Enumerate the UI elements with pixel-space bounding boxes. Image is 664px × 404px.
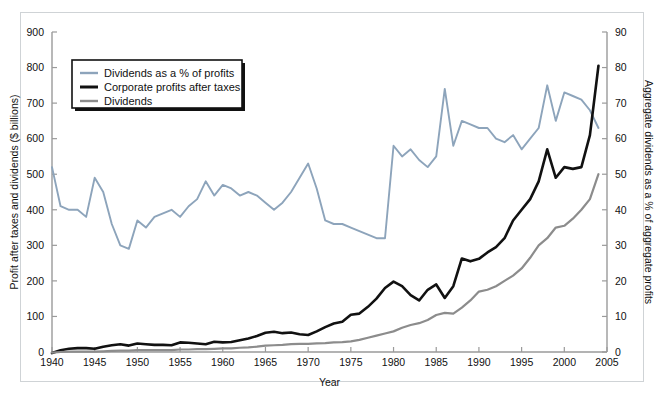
x-axis-tick-label: 1940 bbox=[40, 356, 64, 368]
x-axis-tick-label: 1960 bbox=[211, 356, 235, 368]
line-chart: 0100200300400500600700800900010203040506… bbox=[0, 0, 664, 404]
x-axis-tick-label: 1975 bbox=[339, 356, 363, 368]
legend-label-2: Corporate profits after taxes bbox=[104, 81, 241, 93]
x-axis-tick-label: 1945 bbox=[83, 356, 107, 368]
x-axis-tick-label: 1970 bbox=[296, 356, 320, 368]
legend-label-3: Dividends bbox=[104, 95, 153, 107]
y-axis-left-title: Profit after taxes and dividends ($ bill… bbox=[8, 95, 20, 290]
y-axis-left-tick-label: 700 bbox=[26, 97, 44, 109]
x-axis-tick-label: 1980 bbox=[382, 356, 406, 368]
chart-figure: 0100200300400500600700800900010203040506… bbox=[0, 0, 664, 404]
y-axis-right-tick-label: 30 bbox=[615, 239, 627, 251]
y-axis-right-tick-label: 10 bbox=[615, 310, 627, 322]
x-axis-tick-label: 1965 bbox=[254, 356, 278, 368]
y-axis-left-tick-label: 900 bbox=[26, 26, 44, 38]
y-axis-left-tick-label: 600 bbox=[26, 132, 44, 144]
x-axis-tick-label: 1995 bbox=[510, 356, 534, 368]
y-axis-left-tick-label: 400 bbox=[26, 204, 44, 216]
x-axis-tick-label: 1990 bbox=[467, 356, 491, 368]
y-axis-left-tick-label: 800 bbox=[26, 61, 44, 73]
legend-label-1: Dividends as a % of profits bbox=[104, 67, 235, 79]
y-axis-right-tick-label: 60 bbox=[615, 132, 627, 144]
y-axis-right-tick-label: 90 bbox=[615, 26, 627, 38]
y-axis-right-tick-label: 20 bbox=[615, 275, 627, 287]
y-axis-right-title: Aggregate dividends as a % of aggregate … bbox=[643, 80, 655, 304]
y-axis-left-tick-label: 500 bbox=[26, 168, 44, 180]
x-axis-tick-label: 1955 bbox=[168, 356, 192, 368]
y-axis-right-tick-label: 70 bbox=[615, 97, 627, 109]
y-axis-left-tick-label: 100 bbox=[26, 310, 44, 322]
y-axis-right-tick-label: 50 bbox=[615, 168, 627, 180]
y-axis-left-tick-label: 200 bbox=[26, 275, 44, 287]
x-axis-tick-label: 1950 bbox=[126, 356, 150, 368]
x-axis-tick-label: 2005 bbox=[595, 356, 619, 368]
y-axis-right-tick-label: 40 bbox=[615, 204, 627, 216]
y-axis-left-tick-label: 300 bbox=[26, 239, 44, 251]
x-axis-tick-label: 2000 bbox=[553, 356, 577, 368]
x-axis-title: Year bbox=[319, 376, 341, 388]
x-axis-tick-label: 1985 bbox=[425, 356, 449, 368]
y-axis-right-tick-label: 80 bbox=[615, 61, 627, 73]
